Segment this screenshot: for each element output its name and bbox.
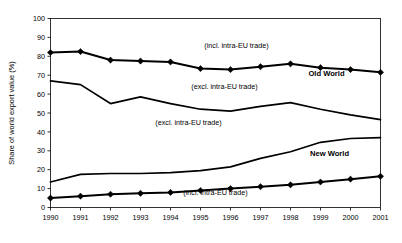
annotation-new-excl: (excl. intra-EU trade) <box>155 118 221 127</box>
y-tick-label: 90 <box>37 33 45 42</box>
y-tick-label: 0 <box>41 203 45 212</box>
x-tick-label: 1992 <box>103 213 119 222</box>
x-tick-label: 2001 <box>373 213 389 222</box>
annotation-new-incl: (incl. intra-EU trade) <box>183 188 247 197</box>
x-tick-label: 1997 <box>253 213 269 222</box>
y-axis-title: Share of world export value (%) <box>7 61 16 165</box>
annotation-old-incl: (incl. intra-EU trade) <box>204 41 268 50</box>
y-tick-label: 20 <box>37 165 45 174</box>
y-axis-title-text: Share of world export value (%) <box>7 61 16 165</box>
y-tick-label: 100 <box>33 14 45 23</box>
y-tick-label: 60 <box>37 90 45 99</box>
line-chart: Share of world export value (%) 01020304… <box>0 0 402 243</box>
y-tick-label: 50 <box>37 109 45 118</box>
y-tick-label: 40 <box>37 128 45 137</box>
x-tick-label: 1998 <box>283 213 299 222</box>
x-tick-label: 1991 <box>73 213 89 222</box>
chart-container: Share of world export value (%) 01020304… <box>0 0 402 243</box>
y-tick-label: 30 <box>37 146 45 155</box>
x-tick-label: 1995 <box>193 213 209 222</box>
y-tick-label: 80 <box>37 52 45 61</box>
x-tick-label: 1999 <box>313 213 329 222</box>
annotation-old-excl: (excl. intra-EU trade) <box>191 82 257 91</box>
x-tick-label: 1996 <box>223 213 239 222</box>
y-tick-label: 70 <box>37 71 45 80</box>
annotation-old-world: Old World <box>308 69 344 78</box>
x-tick-label: 1994 <box>163 213 179 222</box>
y-tick-label: 10 <box>37 184 45 193</box>
annotation-new-world: New World <box>310 149 349 158</box>
x-tick-label: 1993 <box>133 213 149 222</box>
x-tick-label: 1990 <box>43 213 59 222</box>
x-tick-label: 2000 <box>343 213 359 222</box>
